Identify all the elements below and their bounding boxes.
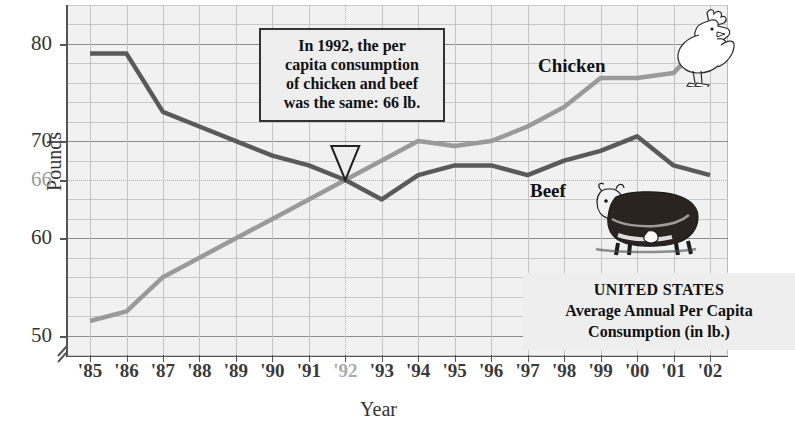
x-axis-tick-mark [309, 355, 310, 362]
rooster-icon [663, 7, 735, 87]
x-axis-tick-mark [601, 355, 602, 362]
x-axis-tick-mark [127, 355, 128, 362]
callout-annotation: In 1992, the per capita consumption of c… [259, 28, 445, 122]
x-axis-tick-mark [528, 355, 529, 362]
y-axis-tick-label: 66 [8, 169, 52, 190]
callout-line-1: In 1992, the per [269, 36, 435, 55]
y-axis-tick-mark [60, 180, 68, 182]
callout-line-4: was the same: 66 lb. [269, 93, 435, 112]
y-axis-tick-mark [60, 44, 68, 46]
y-axis-tick-label: 70 [8, 130, 52, 151]
chicken-series-label: Chicken [538, 55, 606, 77]
callout-line-2: capita consumption [269, 55, 435, 74]
y-axis-tick-mark [60, 336, 68, 338]
x-axis-tick-mark [236, 355, 237, 362]
x-axis-tick-mark [345, 355, 346, 362]
y-axis-tick-label: 50 [8, 325, 52, 346]
x-axis-tick-mark [272, 355, 273, 362]
callout-line-3: of chicken and beef [269, 74, 435, 93]
x-axis-tick-mark [90, 355, 91, 362]
x-axis-tick-label: '02 [687, 360, 733, 382]
caption-line-3: Consumption (in lb.) [527, 321, 791, 342]
cow-icon [588, 173, 708, 259]
x-axis-title: Year [0, 398, 757, 421]
x-axis-tick-mark [382, 355, 383, 362]
y-axis-tick-label: 60 [8, 227, 52, 248]
x-axis-tick-mark [491, 355, 492, 362]
caption-line-2: Average Annual Per Capita [527, 300, 791, 321]
caption-line-1: UNITED STATES [527, 279, 791, 300]
beef-series-label: Beef [530, 180, 566, 202]
y-axis-tick-mark [60, 238, 68, 240]
x-axis-tick-mark [199, 355, 200, 362]
x-axis-tick-mark [455, 355, 456, 362]
y-axis-title: Pounds [43, 102, 66, 222]
x-axis-tick-mark [674, 355, 675, 362]
grid-line-h [68, 355, 728, 356]
y-axis-tick-mark [60, 141, 68, 143]
x-axis-tick-mark [710, 355, 711, 362]
x-axis-tick-mark [418, 355, 419, 362]
chart-caption: UNITED STATES Average Annual Per Capita … [523, 273, 795, 350]
x-axis-tick-mark [564, 355, 565, 362]
x-axis-tick-mark [163, 355, 164, 362]
y-axis-tick-label: 80 [8, 33, 52, 54]
x-axis-tick-mark [637, 355, 638, 362]
